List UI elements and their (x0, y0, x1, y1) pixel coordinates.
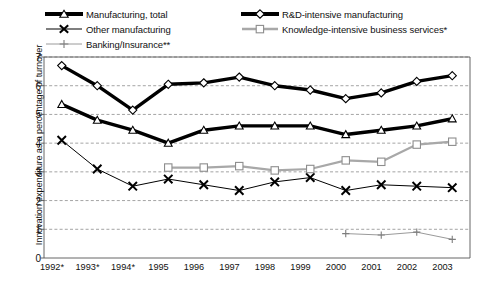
data-point-square (449, 138, 456, 145)
x-tick-1996: 1996 (184, 262, 204, 272)
x-tick-2002: 2002 (397, 262, 417, 272)
series-line (62, 140, 453, 190)
x-tick-1994: 1994* (111, 262, 135, 272)
x-tick-1997: 1997 (219, 262, 239, 272)
data-point-diamond (271, 82, 279, 90)
x-axis-ticks: 1992* 1993* 1994* 1995 1996 1997 1998 19… (0, 262, 487, 278)
data-point-square (165, 164, 172, 171)
x-tick-1998: 1998 (255, 262, 275, 272)
x-tick-1999: 1999 (290, 262, 310, 272)
chart-figure: Manufacturing, total Other manufacturing… (0, 0, 487, 281)
x-tick-1992: 1992* (40, 262, 64, 272)
data-point-diamond (448, 72, 456, 80)
data-point-square (236, 162, 243, 169)
data-point-x (129, 182, 137, 190)
plot-area (0, 0, 487, 281)
series-line (62, 104, 453, 143)
data-point-square (378, 158, 385, 165)
series-0 (58, 100, 456, 146)
series-3 (58, 62, 457, 115)
x-tick-2003: 2003 (432, 262, 452, 272)
x-tick-2000: 2000 (326, 262, 346, 272)
data-point-plus (342, 230, 349, 237)
data-point-plus (378, 231, 385, 238)
data-point-diamond (342, 95, 350, 103)
x-tick-1993: 1993* (75, 262, 99, 272)
data-point-diamond (413, 77, 421, 85)
data-point-diamond (235, 73, 243, 81)
data-point-diamond (306, 86, 314, 94)
series-line (62, 66, 453, 111)
data-point-square (307, 165, 314, 172)
data-point-square (200, 164, 207, 171)
data-point-square (271, 167, 278, 174)
data-point-plus (449, 236, 456, 243)
x-tick-2001: 2001 (361, 262, 381, 272)
series-line (346, 232, 453, 239)
series-2 (342, 229, 456, 243)
data-point-square (342, 157, 349, 164)
data-point-square (413, 141, 420, 148)
series-1 (58, 136, 457, 195)
x-tick-1995: 1995 (148, 262, 168, 272)
data-point-diamond (377, 89, 385, 97)
